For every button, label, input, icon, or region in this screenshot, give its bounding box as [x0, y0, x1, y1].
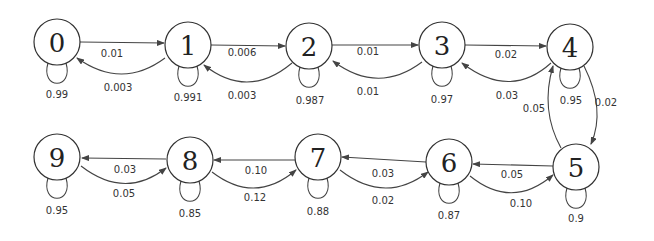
label-self-4: 0.95	[560, 95, 582, 106]
label-8-9: 0.03	[114, 164, 136, 175]
label-3-4: 0.02	[495, 49, 517, 60]
edge-3-4	[465, 45, 546, 46]
state-node-2: 2	[286, 23, 332, 69]
label-self-8: 0.85	[179, 208, 201, 219]
label-5-6: 0.05	[501, 169, 523, 180]
state-label-3: 3	[434, 31, 451, 61]
state-node-1: 1	[165, 22, 211, 68]
label-self-5: 0.9	[568, 213, 584, 224]
self-loop-0	[47, 63, 67, 83]
state-label-2: 2	[301, 32, 318, 62]
state-label-8: 8	[182, 146, 199, 176]
label-8-7: 0.12	[244, 192, 266, 203]
self-loop-2	[299, 67, 319, 87]
label-1-0: 0.003	[104, 82, 133, 93]
label-9-8: 0.05	[113, 188, 135, 199]
self-loop-1	[178, 66, 198, 86]
label-self-9: 0.95	[46, 205, 68, 216]
state-node-9: 9	[34, 134, 80, 180]
label-self-7: 0.88	[307, 206, 329, 217]
state-label-4: 4	[562, 33, 579, 63]
self-loop-6	[439, 183, 459, 203]
label-self-1: 0.991	[174, 92, 203, 103]
label-7-6: 0.02	[372, 195, 394, 206]
self-loop-9	[47, 178, 67, 198]
state-node-7: 7	[295, 134, 341, 180]
self-loop-5	[566, 188, 586, 208]
state-node-8: 8	[167, 137, 213, 183]
edge-4-3	[462, 63, 551, 82]
label-3-2: 0.01	[357, 86, 379, 97]
label-5-4: 0.05	[523, 103, 545, 114]
label-self-2: 0.987	[296, 95, 325, 106]
state-label-1: 1	[180, 31, 197, 61]
self-loop-8	[180, 181, 200, 201]
label-0-1: 0.01	[101, 48, 123, 59]
state-label-9: 9	[49, 143, 66, 173]
state-label-5: 5	[568, 153, 585, 183]
label-6-7: 0.03	[372, 168, 394, 179]
label-4-3: 0.03	[496, 90, 518, 101]
label-2-1: 0.003	[228, 90, 257, 101]
label-self-3: 0.97	[431, 94, 453, 105]
label-self-0: 0.99	[46, 89, 68, 100]
state-label-6: 6	[441, 148, 458, 178]
label-1-2: 0.006	[228, 47, 257, 58]
edge-1-2	[211, 45, 285, 46]
state-label-0: 0	[49, 28, 66, 58]
label-7-8: 0.10	[245, 165, 267, 176]
markov-chain-diagram: 0.01 0.006 0.01 0.02 0.003 0.003 0.01 0.…	[0, 0, 654, 241]
self-loop-7	[308, 178, 328, 198]
self-loop-3	[432, 66, 452, 86]
state-node-5: 5	[553, 144, 599, 190]
edge-3-2	[333, 61, 422, 78]
edge-1-0	[77, 58, 165, 74]
edge-0-1	[80, 42, 164, 43]
edge-8-9	[82, 158, 166, 159]
edge-2-1	[204, 63, 292, 82]
state-node-3: 3	[419, 22, 465, 68]
self-loop-4	[560, 68, 580, 88]
edge-6-7	[342, 157, 426, 162]
state-node-4: 4	[547, 24, 593, 70]
state-node-0: 0	[34, 19, 80, 65]
state-label-7: 7	[310, 143, 327, 173]
edge-5-4	[548, 66, 561, 148]
label-4-5: 0.02	[595, 97, 617, 108]
label-2-3: 0.01	[357, 46, 379, 57]
label-self-6: 0.87	[438, 210, 460, 221]
label-6-5: 0.10	[510, 198, 532, 209]
edge-5-6	[473, 164, 553, 166]
state-node-6: 6	[426, 139, 472, 185]
